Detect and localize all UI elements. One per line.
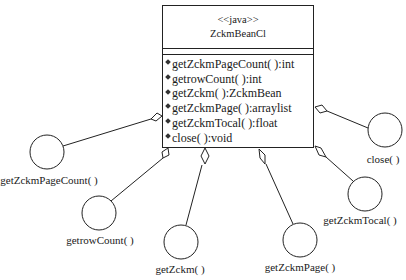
aggregation-diamond-icon	[259, 149, 265, 164]
method-item: getZckmPage( ):arraylist	[166, 101, 313, 116]
connector-getrowcount	[111, 158, 163, 201]
method-item: close( ):void	[166, 131, 313, 146]
aggregation-diamond-icon	[315, 146, 326, 157]
class-name: ZckmBeanCl	[163, 27, 313, 41]
aggregation-diamond-icon	[201, 148, 209, 164]
connector-getzckm	[186, 165, 202, 225]
interface-circle-getrowcount	[82, 196, 116, 230]
interface-circle-getzckmtocal	[348, 177, 382, 211]
method-bullet-icon	[165, 104, 171, 110]
class-header: <<java>> ZckmBeanCl	[163, 6, 313, 48]
method-item: getZckmTocal( ):float	[166, 116, 313, 131]
method-bullet-icon	[165, 118, 171, 124]
method-compartment: getZckmPageCount( ):int getrowCount( ):i…	[163, 55, 313, 145]
connector-getzckmpagecount	[63, 119, 151, 146]
connector-getzckmtocal	[326, 157, 353, 181]
interface-circle-getzckmpagecount	[30, 135, 64, 169]
method-bullet-icon	[165, 133, 171, 139]
method-bullet-icon	[165, 89, 171, 95]
connector-getzckmpage	[266, 164, 293, 224]
aggregation-diamond-icon	[162, 148, 169, 158]
interface-label-getzckmpage: getZckmPage( )	[265, 261, 336, 273]
connector-close	[327, 111, 368, 128]
interface-label-getzckm: getZckm( )	[155, 263, 204, 275]
aggregation-diamond-icon	[151, 113, 162, 121]
method-item: getrowCount( ):int	[166, 72, 313, 87]
aggregation-diamond-icon	[315, 105, 327, 113]
class-stereotype: <<java>>	[163, 13, 313, 27]
method-bullet-icon	[165, 74, 171, 80]
method-bullet-icon	[165, 60, 171, 66]
interface-label-close: close( )	[367, 153, 400, 165]
interface-circle-getzckm	[164, 225, 198, 259]
interface-label-getrowcount: getrowCount( )	[66, 234, 134, 246]
interface-label-getzckmpagecount: getZckmPageCount( )	[0, 174, 97, 186]
interface-circle-getzckmpage	[283, 223, 317, 257]
attribute-compartment	[163, 48, 313, 55]
method-item: getZckmPageCount( ):int	[166, 57, 313, 72]
interface-label-getzckmtocal: getZckmTocal( )	[323, 214, 396, 226]
interface-circle-close	[368, 113, 402, 147]
class-box: <<java>> ZckmBeanCl getZckmPageCount( ):…	[162, 5, 314, 148]
method-item: getZckm( ):ZckmBean	[166, 86, 313, 101]
